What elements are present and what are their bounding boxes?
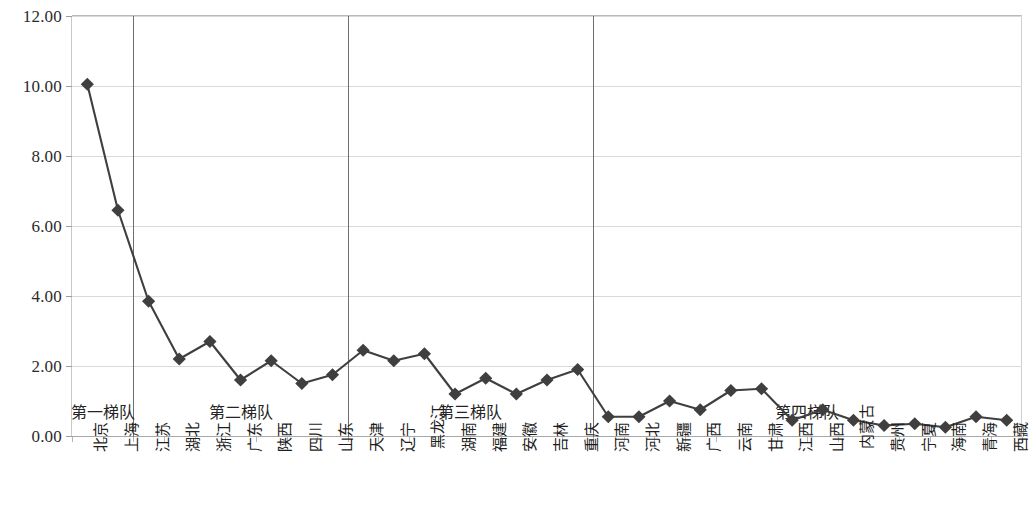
x-axis-label: 天津 xyxy=(370,422,385,452)
y-tick-label: 6.00 xyxy=(0,218,62,235)
data-series xyxy=(72,16,1022,436)
x-axis-label: 上海 xyxy=(125,422,140,452)
data-point-marker[interactable] xyxy=(571,363,584,376)
y-tick-label: 0.00 xyxy=(0,428,62,445)
x-axis-label: 江西 xyxy=(799,422,814,452)
data-point-marker[interactable] xyxy=(111,204,124,217)
x-axis-label: 甘肃 xyxy=(769,422,784,452)
gridline-0.00 xyxy=(72,436,1022,437)
x-axis-label: 宁夏 xyxy=(922,422,937,452)
data-point-marker[interactable] xyxy=(939,421,952,434)
x-axis-label: 云南 xyxy=(738,422,753,452)
data-point-marker[interactable] xyxy=(878,419,891,432)
data-point-marker[interactable] xyxy=(694,403,707,416)
y-tick-label: 4.00 xyxy=(0,288,62,305)
data-point-marker[interactable] xyxy=(663,394,676,407)
x-axis-label: 四川 xyxy=(309,422,324,452)
x-axis-label: 湖北 xyxy=(186,422,201,452)
line-chart: 0.002.004.006.008.0010.0012.00 第一梯队第二梯队第… xyxy=(0,0,1036,520)
y-tick-label: 12.00 xyxy=(0,8,62,25)
data-point-marker[interactable] xyxy=(81,78,94,91)
x-axis-label: 山西 xyxy=(830,422,845,452)
x-axis-label: 贵州 xyxy=(891,422,906,452)
x-axis-label: 青海 xyxy=(983,422,998,452)
x-axis-label: 江苏 xyxy=(156,422,171,452)
x-axis-label: 西藏 xyxy=(1014,422,1029,452)
y-tick-label: 10.00 xyxy=(0,78,62,95)
y-tick-label: 2.00 xyxy=(0,358,62,375)
x-axis-label: 广西 xyxy=(707,422,722,452)
x-axis-label: 湖南 xyxy=(462,422,477,452)
x-axis-label: 河北 xyxy=(646,422,661,452)
x-axis-label: 浙江 xyxy=(217,422,232,452)
data-point-marker[interactable] xyxy=(632,410,645,423)
data-point-marker[interactable] xyxy=(510,387,523,400)
data-point-marker[interactable] xyxy=(602,410,615,423)
data-point-marker[interactable] xyxy=(173,352,186,365)
data-point-marker[interactable] xyxy=(908,417,921,430)
y-tick-label: 8.00 xyxy=(0,148,62,165)
x-axis-label: 海南 xyxy=(952,422,967,452)
x-axis-label: 河南 xyxy=(615,422,630,452)
x-axis-label: 陕西 xyxy=(278,422,293,452)
x-axis-label: 吉林 xyxy=(554,422,569,452)
x-axis-label: 重庆 xyxy=(585,422,600,452)
x-axis-label: 内蒙古 xyxy=(860,404,875,449)
data-point-marker[interactable] xyxy=(1000,414,1013,427)
x-axis-label: 福建 xyxy=(493,422,508,452)
data-point-marker[interactable] xyxy=(387,354,400,367)
data-point-marker[interactable] xyxy=(479,372,492,385)
data-point-marker[interactable] xyxy=(724,384,737,397)
x-axis-label: 广东 xyxy=(248,422,263,452)
data-point-marker[interactable] xyxy=(969,410,982,423)
x-axis-label: 黑龙江 xyxy=(431,404,446,449)
x-axis-label: 北京 xyxy=(94,422,109,452)
x-axis-label: 新疆 xyxy=(677,422,692,452)
x-tick-mark xyxy=(72,437,73,442)
x-axis-label: 安徽 xyxy=(523,422,538,452)
data-point-marker[interactable] xyxy=(816,403,829,416)
x-axis-label: 辽宁 xyxy=(401,422,416,452)
data-point-marker[interactable] xyxy=(142,295,155,308)
x-axis-label: 山东 xyxy=(339,422,354,452)
plot-area xyxy=(72,16,1022,436)
data-point-marker[interactable] xyxy=(540,373,553,386)
